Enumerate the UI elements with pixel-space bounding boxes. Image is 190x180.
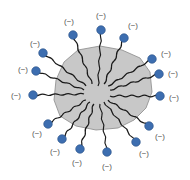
head-group-bottom-l3	[76, 145, 85, 154]
head-group-left-1	[39, 49, 48, 58]
head-group-top-left	[69, 31, 78, 40]
head-group-bottom-l2	[58, 135, 67, 144]
charge-label-top-left: (−)	[64, 17, 74, 26]
head-group-right-1	[148, 55, 157, 64]
micelle-illustration: (−)(−)(−)(−)(−)(−)(−)(−)(−)(−)(−)(−)(−)(…	[0, 0, 190, 180]
head-group-bottom-r1	[132, 138, 141, 147]
head-group-bottom-r2	[145, 122, 154, 131]
head-group-top-right	[120, 34, 129, 43]
charge-label-bottom-l1: (−)	[32, 129, 42, 138]
micelle-diagram: (−)(−)(−)(−)(−)(−)(−)(−)(−)(−)(−)(−)(−)(…	[0, 0, 190, 180]
charge-label-right-3: (−)	[169, 93, 179, 102]
head-group-left-2	[32, 67, 41, 76]
head-group-bottom-l1	[44, 120, 53, 129]
charge-label-bottom-r2: (−)	[155, 132, 165, 141]
charge-label-bottom-l2: (−)	[50, 147, 60, 156]
charge-label-left-3: (−)	[11, 91, 21, 100]
charge-label-right-1: (−)	[161, 49, 171, 58]
head-group-top	[97, 26, 106, 35]
charge-label-top-right: (−)	[128, 21, 138, 30]
head-group-right-3	[156, 92, 165, 101]
head-group-bottom	[103, 148, 112, 157]
charge-label-bottom-l3: (−)	[72, 158, 82, 167]
charge-label-left-1: (−)	[30, 39, 40, 48]
head-group-left-3	[29, 91, 38, 100]
charge-label-bottom: (−)	[102, 162, 112, 171]
charge-label-left-2: (−)	[18, 65, 28, 74]
charge-label-bottom-r1: (−)	[139, 149, 149, 158]
charge-label-right-2: (−)	[168, 69, 178, 78]
head-group-right-2	[155, 70, 164, 79]
charge-label-top: (−)	[96, 11, 106, 20]
